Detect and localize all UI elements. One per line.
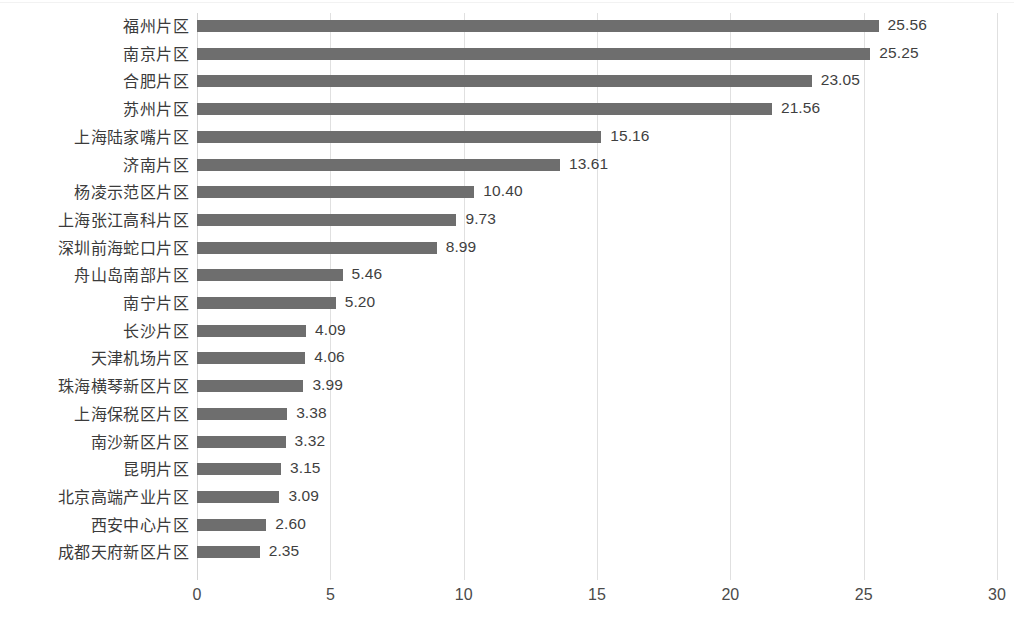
x-tick-label: 20	[721, 586, 739, 604]
bar-row: 3.99	[197, 373, 997, 401]
x-tick-label: 25	[855, 586, 873, 604]
bar-value-label: 3.09	[288, 487, 319, 505]
bar-row: 4.09	[197, 318, 997, 346]
bar[interactable]	[197, 380, 303, 392]
plot-area: 25.5625.2523.0521.5615.1613.6110.409.738…	[197, 13, 997, 580]
x-tick-label: 15	[588, 586, 606, 604]
bar-value-label: 9.73	[465, 210, 496, 228]
bar[interactable]	[197, 48, 870, 60]
bar-row: 21.56	[197, 96, 997, 124]
bar[interactable]	[197, 352, 305, 364]
gridline-30	[997, 13, 998, 580]
bar-value-label: 8.99	[446, 238, 477, 256]
bar-value-label: 25.56	[888, 16, 927, 34]
bar[interactable]	[197, 491, 279, 503]
bar-value-label: 3.99	[312, 376, 343, 394]
bar-row: 10.40	[197, 179, 997, 207]
bar[interactable]	[197, 75, 812, 87]
bar[interactable]	[197, 546, 260, 558]
bars-layer: 25.5625.2523.0521.5615.1613.6110.409.738…	[197, 13, 997, 580]
bar-row: 3.15	[197, 456, 997, 484]
bar-row: 2.60	[197, 512, 997, 540]
bar-row: 23.05	[197, 68, 997, 96]
category-label: 南京片区	[123, 41, 189, 69]
category-label: 天津机场片区	[91, 345, 189, 373]
category-label: 合肥片区	[123, 68, 189, 96]
bar[interactable]	[197, 325, 306, 337]
bar-row: 25.25	[197, 41, 997, 69]
bar-row: 15.16	[197, 124, 997, 152]
category-label: 南宁片区	[123, 290, 189, 318]
category-label: 杨凌示范区片区	[74, 179, 189, 207]
category-label: 北京高端产业片区	[58, 484, 189, 512]
bar[interactable]	[197, 408, 287, 420]
category-label: 舟山岛南部片区	[74, 262, 189, 290]
category-label: 上海张江高科片区	[58, 207, 189, 235]
category-label: 深圳前海蛇口片区	[58, 235, 189, 263]
bar[interactable]	[197, 214, 456, 226]
category-label: 上海保税区片区	[74, 401, 189, 429]
bar-value-label: 3.32	[295, 432, 326, 450]
bar[interactable]	[197, 269, 343, 281]
bar-value-label: 15.16	[610, 127, 649, 145]
category-label: 昆明片区	[123, 456, 189, 484]
bar-row: 5.46	[197, 262, 997, 290]
category-label: 南沙新区片区	[91, 429, 189, 457]
bar[interactable]	[197, 103, 772, 115]
category-label: 上海陆家嘴片区	[74, 124, 189, 152]
bar[interactable]	[197, 297, 336, 309]
category-label: 珠海横琴新区片区	[58, 373, 189, 401]
x-axis-tick-labels: 051015202530	[0, 586, 1014, 612]
category-label: 成都天府新区片区	[58, 539, 189, 567]
scan-artifact-line	[0, 2, 1014, 3]
bar[interactable]	[197, 242, 437, 254]
x-tick-label: 0	[193, 586, 202, 604]
bar-row: 3.38	[197, 401, 997, 429]
bar-row: 25.56	[197, 13, 997, 41]
bar[interactable]	[197, 436, 286, 448]
bar-row: 8.99	[197, 235, 997, 263]
bar-value-label: 4.09	[315, 321, 346, 339]
bar-value-label: 5.46	[352, 265, 383, 283]
bar-row: 13.61	[197, 152, 997, 180]
bar[interactable]	[197, 463, 281, 475]
bar[interactable]	[197, 159, 560, 171]
bar-row: 2.35	[197, 539, 997, 567]
bar-value-label: 2.35	[269, 542, 300, 560]
x-tick-label: 10	[455, 586, 473, 604]
bar-value-label: 25.25	[879, 44, 918, 62]
bar[interactable]	[197, 20, 879, 32]
bar-row: 3.09	[197, 484, 997, 512]
horizontal-bar-chart: 福州片区南京片区合肥片区苏州片区上海陆家嘴片区济南片区杨凌示范区片区上海张江高科…	[0, 0, 1014, 617]
bar-value-label: 3.15	[290, 459, 321, 477]
category-label: 苏州片区	[123, 96, 189, 124]
bar[interactable]	[197, 519, 266, 531]
bar-row: 5.20	[197, 290, 997, 318]
bar[interactable]	[197, 186, 474, 198]
bar[interactable]	[197, 131, 601, 143]
category-axis-labels: 福州片区南京片区合肥片区苏州片区上海陆家嘴片区济南片区杨凌示范区片区上海张江高科…	[0, 13, 189, 580]
category-label: 西安中心片区	[91, 512, 189, 540]
x-tick-label: 5	[326, 586, 335, 604]
bar-value-label: 5.20	[345, 293, 376, 311]
bar-value-label: 23.05	[821, 71, 860, 89]
category-label: 福州片区	[123, 13, 189, 41]
bar-value-label: 4.06	[314, 348, 345, 366]
bar-value-label: 3.38	[296, 404, 327, 422]
category-label: 济南片区	[123, 152, 189, 180]
x-tick-label: 30	[988, 586, 1006, 604]
category-label: 长沙片区	[123, 318, 189, 346]
bar-value-label: 2.60	[275, 515, 306, 533]
bar-value-label: 10.40	[483, 182, 522, 200]
bar-row: 9.73	[197, 207, 997, 235]
bar-value-label: 13.61	[569, 155, 608, 173]
bar-row: 3.32	[197, 429, 997, 457]
bar-value-label: 21.56	[781, 99, 820, 117]
bar-row: 4.06	[197, 345, 997, 373]
